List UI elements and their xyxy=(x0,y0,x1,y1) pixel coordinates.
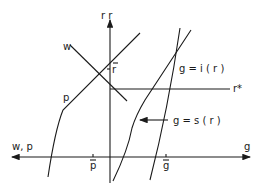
horizontal-axis-label-wp: w, p xyxy=(12,141,33,152)
s-curve-label: g = s ( r ) xyxy=(173,115,221,126)
r-bar-label: r xyxy=(112,64,117,75)
economic-diagram: r r g w, p w p g = i ( r ) g = s ( r ) r… xyxy=(0,0,259,193)
w-label: w xyxy=(63,41,71,52)
p-bar-label: p xyxy=(90,160,96,171)
p-label: p xyxy=(63,92,69,103)
w-curve xyxy=(70,45,127,101)
g-bar-label: g xyxy=(163,160,169,171)
horizontal-axis-label-g: g xyxy=(244,141,250,152)
p-curve xyxy=(48,33,140,177)
vertical-axis-label: r r xyxy=(101,10,113,21)
r-star-label: r* xyxy=(233,83,242,94)
s-curve xyxy=(113,30,191,181)
i-curve-label: g = i ( r ) xyxy=(179,63,224,74)
